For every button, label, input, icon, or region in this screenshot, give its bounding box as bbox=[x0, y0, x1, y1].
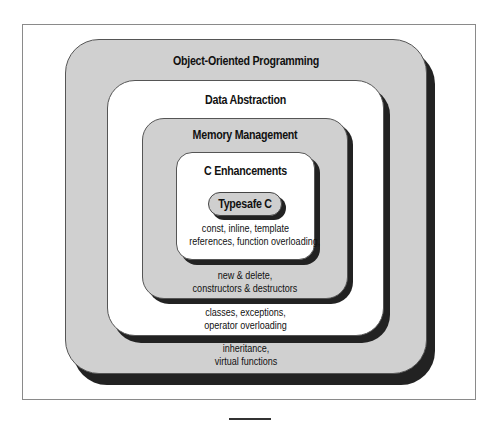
memory-feature-1: new & delete, bbox=[161, 269, 328, 282]
layer-typesafe-c: Typesafe C bbox=[208, 192, 282, 216]
layer-title-data-abstraction: Data Abstraction bbox=[133, 92, 359, 107]
oop-feature-2: virtual functions bbox=[98, 355, 393, 368]
layer-features-memory-management: new & delete, constructors & destructors bbox=[161, 269, 328, 295]
oop-feature-1: inheritance, bbox=[98, 342, 393, 355]
layer-title-typesafe-c: Typesafe C bbox=[215, 196, 274, 211]
memory-feature-2: constructors & destructors bbox=[161, 282, 328, 295]
data-abstraction-feature-1: classes, exceptions, bbox=[133, 306, 359, 319]
layer-features-data-abstraction: classes, exceptions, operator overloadin… bbox=[133, 306, 359, 332]
bottom-rule-divider bbox=[229, 418, 271, 420]
layer-title-c-enhancements: C Enhancements bbox=[189, 163, 301, 178]
layer-c-enhancements: C Enhancements Typesafe C const, inline,… bbox=[176, 152, 315, 260]
layer-features-oop: inheritance, virtual functions bbox=[98, 342, 393, 368]
layer-features-c-enhancements: const, inline, template references, func… bbox=[189, 222, 301, 248]
c-enhancements-feature-2: references, function overloading, bbox=[189, 235, 301, 248]
c-enhancements-feature-1: const, inline, template bbox=[189, 222, 301, 235]
layer-title-oop: Object-Oriented Programming bbox=[98, 53, 393, 68]
data-abstraction-feature-2: operator overloading bbox=[133, 319, 359, 332]
layer-title-memory-management: Memory Management bbox=[161, 127, 328, 142]
